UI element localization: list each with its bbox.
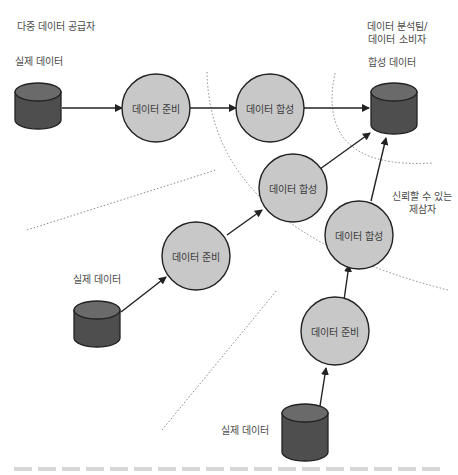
node-synth-top: 데이터 합성 xyxy=(236,101,304,116)
node-prep-top: 데이터 준비 xyxy=(122,101,190,116)
provider-divider-line-2 xyxy=(162,290,277,430)
node-prep-bottom: 데이터 준비 xyxy=(301,324,369,339)
providers-title: 다중 데이터 공급자 xyxy=(17,20,95,33)
trusted-line1: 신뢰할 수 있는 xyxy=(387,190,457,203)
trusted-line2: 제삼자 xyxy=(387,203,457,216)
arrow-prep-mid-to-synth-mid xyxy=(227,210,262,235)
provider-divider-line-1 xyxy=(27,170,216,230)
process-circles xyxy=(122,74,393,365)
cylinder-real-top xyxy=(15,83,61,129)
consumer-title: 데이터 분석팀/ 데이터 소비자 xyxy=(357,20,437,46)
cylinder-real-bottom xyxy=(282,404,328,461)
cylinder-real-middle xyxy=(74,301,120,347)
real-data-label-middle: 실제 데이터 xyxy=(73,273,121,286)
node-synth-middle: 데이터 합성 xyxy=(259,181,327,196)
synthetic-data-label: 합성 데이터 xyxy=(368,56,416,69)
cylinder-synthetic-data xyxy=(371,83,417,134)
arrow-synth-right-to-synthetic-data xyxy=(371,138,386,201)
node-synth-right: 데이터 합성 xyxy=(325,228,393,243)
arrow-real-bottom-to-prep-bottom xyxy=(320,368,326,406)
arrow-synth-mid-to-synthetic-data xyxy=(320,133,370,169)
real-data-label-top: 실제 데이터 xyxy=(15,55,63,68)
consumer-title-line2: 데이터 소비자 xyxy=(357,33,437,46)
node-prep-middle: 데이터 준비 xyxy=(162,249,230,264)
real-data-label-bottom: 실제 데이터 xyxy=(221,424,269,437)
trusted-third-party-label: 신뢰할 수 있는 제삼자 xyxy=(387,190,457,216)
consumer-title-line1: 데이터 분석팀/ xyxy=(357,20,437,33)
arrow-real-mid-to-prep-mid xyxy=(121,277,166,312)
arrow-prep-bottom-to-synth-right xyxy=(344,265,349,300)
cut-off-caption xyxy=(14,467,444,471)
